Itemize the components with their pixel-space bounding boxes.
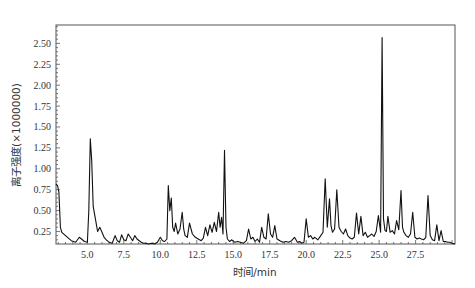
- x-tick-label: 12.5: [188, 249, 206, 260]
- x-tick-label: 20.0: [297, 249, 315, 260]
- y-tick-label: 1.00: [34, 163, 52, 174]
- y-tick-label: 0.50: [34, 205, 52, 216]
- x-tick-label: 15.0: [225, 249, 243, 260]
- x-axis-title: 时间/min: [233, 266, 276, 278]
- y-axis-title: 离子强度(×1000000): [10, 83, 22, 187]
- y-tick-label: 1.25: [34, 142, 52, 153]
- chromatogram-chart: 0.250.500.751.001.251.501.752.002.252.50…: [0, 0, 475, 288]
- x-tick-label: 5.0: [81, 249, 94, 260]
- x-tick-label: 17.5: [261, 249, 279, 260]
- y-tick-label: 2.50: [34, 38, 52, 49]
- x-tick-label: 22.5: [334, 249, 352, 260]
- plot-area-frame: [56, 25, 455, 244]
- y-tick-label: 2.00: [34, 80, 52, 91]
- x-tick-label: 10.0: [152, 249, 170, 260]
- x-tick-label: 25.0: [370, 249, 388, 260]
- x-tick-label: 7.5: [118, 249, 131, 260]
- y-tick-label: 0.25: [34, 226, 52, 237]
- y-tick-label: 0.75: [34, 184, 52, 195]
- y-tick-label: 1.75: [34, 101, 52, 112]
- y-tick-label: 2.25: [34, 59, 52, 70]
- y-tick-label: 1.50: [34, 121, 52, 132]
- x-tick-label: 27.5: [407, 249, 425, 260]
